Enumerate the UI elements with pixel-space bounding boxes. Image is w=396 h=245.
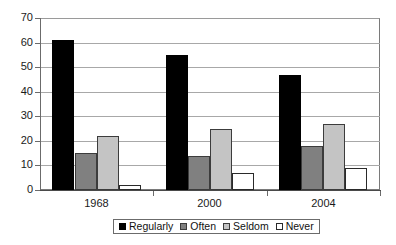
- legend-swatch-icon: [180, 223, 187, 230]
- y-axis-tick-label: 20: [3, 135, 33, 146]
- legend-label: Never: [286, 221, 314, 232]
- x-axis-line: [40, 190, 381, 191]
- bar-regularly-2000: [166, 55, 188, 190]
- legend-item-regularly[interactable]: Regularly: [119, 221, 173, 232]
- y-axis-tick-label: 0: [3, 184, 33, 195]
- y-axis-tick: [35, 165, 40, 166]
- legend-label: Seldom: [233, 221, 269, 232]
- y-axis-tick: [35, 43, 40, 44]
- y-axis-tick-label: 50: [3, 61, 33, 72]
- y-axis-tick: [35, 116, 40, 117]
- bar-often-1968: [75, 153, 97, 190]
- x-axis-tick-label: 2000: [153, 197, 266, 210]
- x-axis-tick-label: 1968: [40, 197, 153, 210]
- y-axis-line: [40, 18, 41, 191]
- x-axis-tick: [380, 191, 381, 196]
- x-axis-tick: [267, 191, 268, 196]
- legend-item-often[interactable]: Often: [180, 221, 216, 232]
- chart-legend: RegularlyOftenSeldomNever: [113, 219, 320, 234]
- legend-swatch-icon: [119, 223, 126, 230]
- y-axis-tick-label: 40: [3, 86, 33, 97]
- bar-never-1968: [119, 185, 141, 190]
- y-axis-tick-label: 10: [3, 159, 33, 170]
- gridline: [40, 67, 380, 68]
- gridline: [40, 43, 380, 44]
- bar-seldom-2000: [210, 129, 232, 190]
- legend-label: Regularly: [129, 221, 173, 232]
- gridline: [40, 92, 380, 93]
- bar-chart: 010203040506070 196820002004 RegularlyOf…: [0, 0, 396, 245]
- bar-never-2004: [345, 168, 367, 190]
- bar-seldom-1968: [97, 136, 119, 190]
- y-axis-tick: [35, 18, 40, 19]
- y-axis-tick: [35, 141, 40, 142]
- legend-item-seldom[interactable]: Seldom: [223, 221, 269, 232]
- y-axis-tick: [35, 67, 40, 68]
- y-axis-tick-label: 60: [3, 37, 33, 48]
- y-axis-tick-labels: 010203040506070: [0, 0, 33, 245]
- bar-often-2004: [301, 146, 323, 190]
- x-axis-tick-label: 2004: [267, 197, 380, 210]
- legend-swatch-icon: [223, 223, 230, 230]
- bar-seldom-2004: [323, 124, 345, 190]
- y-axis-tick: [35, 92, 40, 93]
- legend-item-never[interactable]: Never: [276, 221, 314, 232]
- bar-never-2000: [232, 173, 254, 190]
- gridline: [40, 116, 380, 117]
- bar-regularly-2004: [279, 75, 301, 190]
- legend-swatch-icon: [276, 223, 283, 230]
- legend-label: Often: [190, 221, 216, 232]
- y-axis-tick-label: 70: [3, 12, 33, 23]
- y-axis-tick-label: 30: [3, 110, 33, 121]
- bar-often-2000: [188, 156, 210, 190]
- x-axis-tick: [153, 191, 154, 196]
- bar-regularly-1968: [52, 40, 74, 190]
